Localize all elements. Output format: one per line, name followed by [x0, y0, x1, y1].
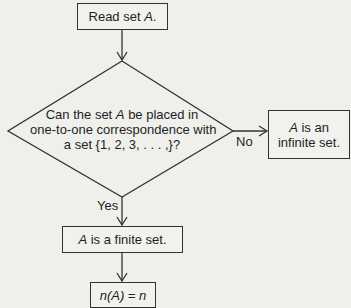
decision-question: Can the set A be placed in one-to-one co… — [30, 107, 214, 152]
decision-line-1: Can the set A be placed in — [30, 107, 214, 122]
set-variable: A — [144, 9, 153, 24]
node-read-set-text: Read set — [89, 9, 145, 24]
edge-label-yes: Yes — [97, 198, 118, 213]
decision-line-2: one-to-one correspondence with — [30, 122, 214, 137]
node-cardinality: n(A) = n — [90, 282, 156, 308]
node-infinite-set: A is an infinite set. — [268, 110, 350, 159]
node-finite-set: A is a finite set. — [62, 226, 183, 253]
node-read-set: Read set A. — [77, 3, 168, 30]
edge-label-no: No — [236, 134, 253, 149]
decision-line-3: a set {1, 2, 3, . . . ,}? — [30, 137, 214, 152]
